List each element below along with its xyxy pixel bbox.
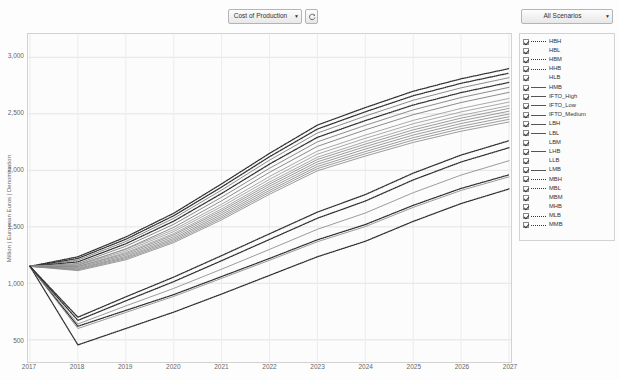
legend-item-label: MBL [549,186,561,192]
legend-item[interactable]: LBL [523,129,612,138]
chevron-down-icon: ▼ [292,14,301,19]
legend-checkbox[interactable] [523,204,529,210]
y-axis-tick-label: 3,000 [8,53,24,60]
y-axis-tick-label: 500 [13,337,24,344]
legend-item[interactable]: MBL [523,184,612,193]
legend-item-label: LHB [549,149,560,155]
scenario-select-value: All Scenarios [522,13,603,20]
legend-item[interactable]: MMB [523,221,612,230]
toolbar: Cost of Production ▼ All Scenarios ▼ [0,0,619,28]
legend-checkbox[interactable] [523,66,529,72]
legend-checkbox[interactable] [523,195,529,201]
chart-legend[interactable]: HBHHBLHBMHHBHLBHMBIFTO_HighIFTO_LowIFTO_… [519,33,615,241]
refresh-icon [308,13,316,21]
legend-checkbox[interactable] [523,112,529,118]
y-axis-tick-label: 1,500 [8,224,24,231]
y-axis-tick-label: 2,000 [8,167,24,174]
legend-item[interactable]: MBM [523,193,612,202]
legend-item[interactable]: MLB [523,212,612,221]
legend-item-label: HLB [549,75,560,81]
y-axis-tick-label: 1,000 [8,281,24,288]
legend-line-swatch [531,103,546,109]
legend-item[interactable]: HBH [523,37,612,46]
x-axis-tick-label: 2026 [455,364,469,371]
legend-checkbox[interactable] [523,94,529,100]
legend-item-label: MBM [549,195,563,201]
metric-select[interactable]: Cost of Production ▼ [228,9,302,24]
legend-item[interactable]: LBM [523,138,612,147]
legend-checkbox[interactable] [523,140,529,146]
legend-checkbox[interactable] [523,48,529,54]
chart-plot-area [27,33,512,363]
x-axis-tick-label: 2021 [214,364,228,371]
legend-item-label: IFTO_Low [549,103,576,109]
legend-checkbox[interactable] [523,75,529,81]
legend-checkbox[interactable] [523,222,529,228]
legend-item[interactable]: HBM [523,55,612,64]
legend-item-label: MLB [549,213,561,219]
legend-checkbox[interactable] [523,149,529,155]
x-axis-tick-label: 2019 [118,364,132,371]
legend-item[interactable]: LBH [523,120,612,129]
legend-line-swatch [531,48,546,54]
legend-line-swatch [531,57,546,63]
legend-line-swatch [531,85,546,91]
legend-item[interactable]: IFTO_Low [523,101,612,110]
legend-line-swatch [531,222,546,228]
legend-item[interactable]: LMB [523,166,612,175]
legend-checkbox[interactable] [523,121,529,127]
legend-line-swatch [531,167,546,173]
x-axis-tick-label: 2017 [22,364,36,371]
legend-item-label: HBM [549,57,562,63]
legend-item-label: MHB [549,204,562,210]
legend-item-label: MBH [549,177,562,183]
legend-item[interactable]: IFTO_High [523,92,612,101]
legend-item[interactable]: HBL [523,46,612,55]
legend-line-swatch [531,130,546,136]
x-axis-labels: 2017201820192020202120222023202420252026… [27,364,512,378]
legend-item[interactable]: MHB [523,202,612,211]
legend-item-label: LBL [549,131,559,137]
legend-line-swatch [531,149,546,155]
legend-checkbox[interactable] [523,39,529,45]
legend-line-swatch [531,176,546,182]
legend-checkbox[interactable] [523,57,529,63]
legend-item-label: HMB [549,85,562,91]
legend-item[interactable]: LLB [523,156,612,165]
legend-item-label: IFTO_Medium [549,112,586,118]
scenario-select[interactable]: All Scenarios ▼ [521,9,613,24]
legend-line-swatch [531,204,546,210]
legend-item-label: HBH [549,39,561,45]
legend-checkbox[interactable] [523,186,529,192]
legend-item[interactable]: IFTO_Medium [523,111,612,120]
legend-line-swatch [531,195,546,201]
legend-checkbox[interactable] [523,130,529,136]
x-axis-tick-label: 2020 [166,364,180,371]
chevron-down-icon: ▼ [603,14,612,19]
legend-line-swatch [531,94,546,100]
legend-line-swatch [531,213,546,219]
legend-item[interactable]: MBH [523,175,612,184]
legend-line-swatch [531,75,546,81]
legend-checkbox[interactable] [523,167,529,173]
legend-item-label: LBH [549,121,560,127]
legend-checkbox[interactable] [523,213,529,219]
legend-item-label: HHB [549,66,561,72]
legend-item-label: MMB [549,222,563,228]
legend-checkbox[interactable] [523,158,529,164]
x-axis-tick-label: 2022 [262,364,276,371]
legend-checkbox[interactable] [523,103,529,109]
legend-item[interactable]: HLB [523,74,612,83]
legend-item-label: HBL [549,48,560,54]
legend-item[interactable]: HHB [523,65,612,74]
legend-checkbox[interactable] [523,85,529,91]
refresh-button[interactable] [305,9,318,24]
legend-item[interactable]: LHB [523,147,612,156]
x-axis-tick-label: 2018 [70,364,84,371]
x-axis-tick-label: 2024 [358,364,372,371]
legend-item-label: IFTO_High [549,94,577,100]
legend-checkbox[interactable] [523,176,529,182]
legend-item[interactable]: HMB [523,83,612,92]
legend-line-swatch [531,158,546,164]
legend-line-swatch [531,39,546,45]
